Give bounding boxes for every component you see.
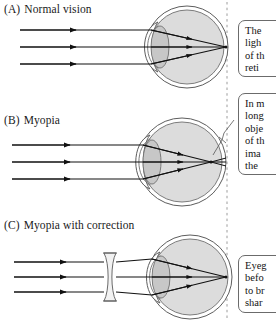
panel-b-title: Myopia bbox=[24, 114, 60, 126]
figure-drawing-layer bbox=[0, 0, 276, 320]
callout-normal-line-3: of th bbox=[245, 50, 276, 62]
panel-b-diagram bbox=[12, 118, 234, 206]
callout-correction-line-3: to br bbox=[245, 285, 276, 297]
focal-point-a bbox=[225, 46, 228, 49]
panel-a-label: (A)Normal vision bbox=[4, 3, 92, 15]
eye-refraction-figure: (A)Normal vision (B)Myopia (C)Myopia wit… bbox=[0, 0, 276, 320]
callout-normal-line-4: reti bbox=[245, 62, 276, 74]
panel-b-tag: (B) bbox=[4, 114, 20, 126]
callout-myopia-line-3: obje bbox=[245, 123, 276, 135]
panel-c-title: Myopia with correction bbox=[24, 219, 135, 231]
corrective-concave-lens bbox=[104, 253, 116, 301]
callout-myopia-line-2: long bbox=[245, 110, 276, 122]
callout-correction-line-2: befo bbox=[245, 272, 276, 284]
diverged-ray-c-3 bbox=[116, 292, 152, 295]
callout-myopia: In m long obje of th ima the bbox=[238, 93, 276, 175]
diverged-ray-c-1 bbox=[116, 259, 152, 262]
focal-point-c bbox=[225, 276, 228, 279]
callout-myopia-line-6: the bbox=[245, 160, 276, 172]
callout-normal-line-1: The bbox=[245, 25, 276, 37]
panel-c-diagram bbox=[14, 235, 232, 319]
callout-myopia-line-5: ima bbox=[245, 148, 276, 160]
panel-b-label: (B)Myopia bbox=[4, 114, 60, 126]
callout-correction-line-4: shar bbox=[245, 297, 276, 309]
callout-correction-line-1: Eyeg bbox=[245, 260, 276, 272]
panel-c-label: (C)Myopia with correction bbox=[4, 219, 134, 231]
callout-myopia-line-1: In m bbox=[245, 98, 276, 110]
panel-c-tag: (C) bbox=[4, 219, 20, 231]
panel-a-title: Normal vision bbox=[24, 3, 91, 15]
panel-a-tag: (A) bbox=[4, 3, 20, 15]
callout-myopia-line-4: of th bbox=[245, 135, 276, 147]
callout-correction: Eyeg befo to br shar bbox=[238, 255, 276, 313]
panel-a-diagram bbox=[20, 6, 228, 88]
focal-point-b bbox=[209, 160, 212, 163]
callout-normal-line-2: ligh bbox=[245, 37, 276, 49]
callout-normal-vision: The ligh of th reti bbox=[238, 20, 276, 77]
